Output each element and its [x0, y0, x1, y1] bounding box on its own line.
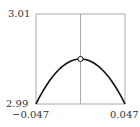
- x-max-label: 0.047: [110, 110, 139, 120]
- peak-marker: [78, 56, 83, 61]
- y-max-label: 3.01: [8, 9, 30, 19]
- x-min-label: −0.047: [12, 110, 49, 120]
- y-min-label: 2.99: [6, 99, 28, 109]
